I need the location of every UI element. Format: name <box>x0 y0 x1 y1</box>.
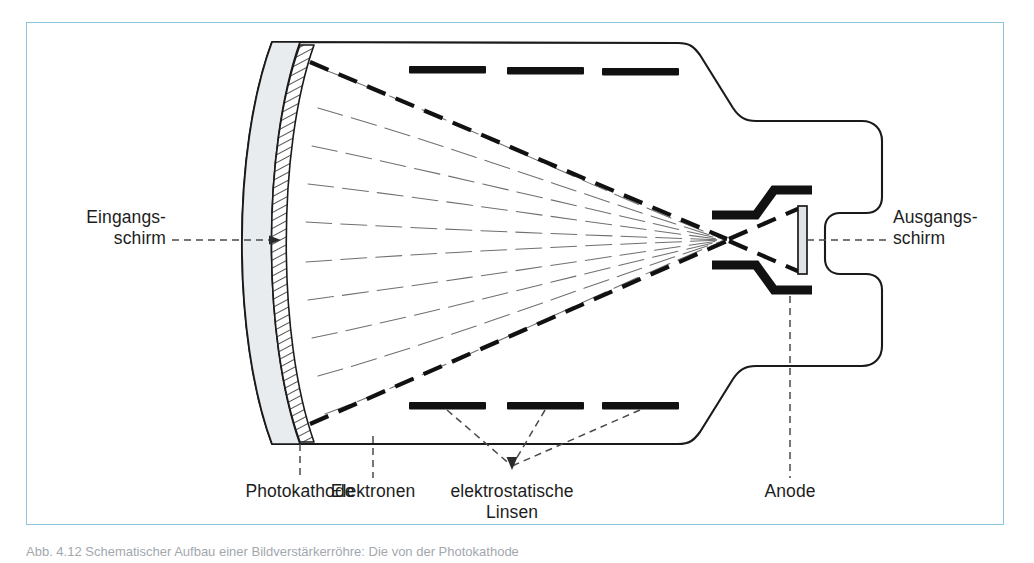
label-electrostatic-lenses: elektrostatische Linsen <box>420 481 604 524</box>
label-anode: Anode <box>734 481 846 502</box>
figure-root: Eingangs- schirm Ausgangs- schirm Photok… <box>0 0 1034 563</box>
label-electrons: Elektronen <box>325 481 421 502</box>
figure-caption: Abb. 4.12 Schematischer Aufbau einer Bil… <box>26 544 1004 563</box>
label-exit-screen: Ausgangs- schirm <box>893 207 1023 250</box>
plate-frame <box>26 22 1004 525</box>
label-entrance-screen: Eingangs- schirm <box>34 207 166 250</box>
